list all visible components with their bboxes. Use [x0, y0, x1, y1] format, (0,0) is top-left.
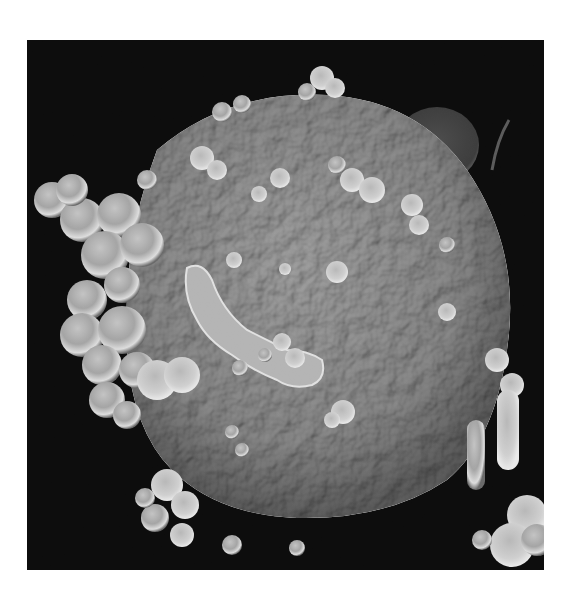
- sem-micrograph: [27, 40, 544, 570]
- page: [0, 0, 572, 611]
- cell-illustration: [27, 40, 544, 570]
- grain-overlay: [27, 40, 544, 570]
